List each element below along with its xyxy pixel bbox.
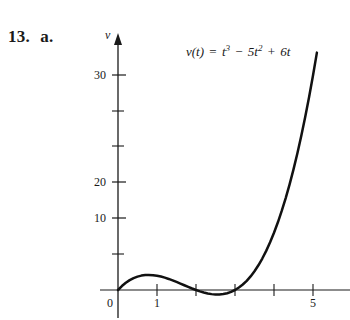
y-axis-arrow-icon (114, 33, 122, 45)
x-tick-label-1: 1 (147, 296, 167, 311)
figure-page: 13.a. v v(t) = t3 − 5t2 + 6t (0, 0, 350, 320)
y-tick-label-20: 20 (82, 175, 106, 190)
x-tick-label-5: 5 (303, 296, 323, 311)
origin-tick-label-0: 0 (100, 296, 120, 311)
y-tick-label-30: 30 (82, 68, 106, 83)
y-tick-label-10: 10 (82, 211, 106, 226)
cubic-velocity-curve (118, 53, 317, 295)
y-tick-marks (112, 75, 126, 254)
velocity-curve-plot (0, 0, 350, 320)
